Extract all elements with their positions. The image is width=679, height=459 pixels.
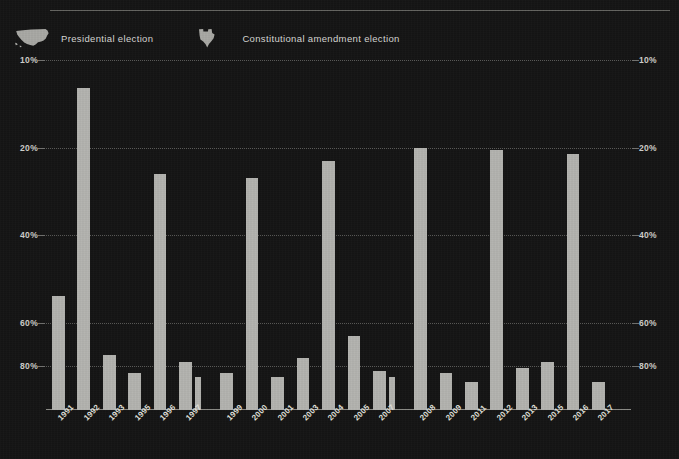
bar-2008[interactable] — [414, 148, 427, 411]
bar-2015[interactable] — [541, 362, 554, 410]
bar-chart-plot-area: 80%80%60%60%40%40%20%20%10%10%1991199219… — [46, 60, 631, 410]
y-tick-dash-left-40 — [38, 235, 45, 236]
gridline-40 — [46, 235, 631, 236]
y-axis-label-right-20: 60% — [639, 318, 657, 328]
gridline-20 — [46, 323, 631, 324]
y-tick-dash-left-20 — [38, 323, 45, 324]
bar-2012[interactable] — [490, 150, 503, 410]
bar-2004[interactable] — [322, 161, 335, 410]
y-tick-dash-right-80 — [632, 60, 639, 61]
bar-2001[interactable] — [271, 377, 284, 410]
bar-2013[interactable] — [516, 368, 529, 410]
y-tick-dash-left-60 — [38, 148, 45, 149]
bar-1993[interactable] — [103, 355, 116, 410]
us-map-icon — [14, 26, 52, 50]
bar-2011[interactable] — [465, 382, 478, 410]
y-tick-dash-right-40 — [632, 235, 639, 236]
bar-1996[interactable] — [154, 174, 167, 410]
y-axis-label-left-80: 10% — [20, 55, 38, 65]
legend-item-constitutional[interactable]: Constitutional amendment election — [195, 26, 399, 50]
y-axis-label-right-60: 20% — [639, 143, 657, 153]
y-tick-dash-left-10 — [38, 366, 45, 367]
bar-1991[interactable] — [52, 296, 65, 410]
bar-1995[interactable] — [128, 373, 141, 410]
bar-2005[interactable] — [348, 336, 361, 410]
gridline-60 — [46, 148, 631, 149]
bar-2009[interactable] — [440, 373, 453, 410]
y-axis-label-left-60: 20% — [20, 143, 38, 153]
y-axis-label-left-20: 60% — [20, 318, 38, 328]
y-axis-label-left-10: 80% — [20, 361, 38, 371]
header-rule — [50, 10, 670, 11]
bar-2016[interactable] — [567, 154, 580, 410]
legend-item-presidential[interactable]: Presidential election — [14, 26, 153, 50]
bar-2003[interactable] — [297, 358, 310, 411]
bar-1999[interactable] — [220, 373, 233, 410]
y-tick-dash-left-80 — [38, 60, 45, 61]
y-axis-label-right-40: 40% — [639, 230, 657, 240]
bar-2007[interactable] — [373, 371, 386, 410]
bar-2017[interactable] — [592, 382, 605, 410]
y-axis-label-right-80: 10% — [639, 55, 657, 65]
texas-map-icon — [195, 26, 233, 50]
y-tick-dash-right-10 — [632, 366, 639, 367]
gridline-80 — [46, 60, 631, 61]
y-axis-label-right-10: 80% — [639, 361, 657, 371]
bar-2000[interactable] — [246, 178, 259, 410]
y-tick-dash-right-20 — [632, 323, 639, 324]
bar-1992[interactable] — [77, 88, 90, 410]
chart-legend: Presidential election Constitutional ame… — [14, 26, 442, 50]
y-axis-label-left-40: 40% — [20, 230, 38, 240]
y-tick-dash-right-60 — [632, 148, 639, 149]
legend-label-constitutional: Constitutional amendment election — [242, 33, 399, 44]
bar-1997[interactable] — [179, 362, 192, 410]
legend-label-presidential: Presidential election — [61, 33, 153, 44]
